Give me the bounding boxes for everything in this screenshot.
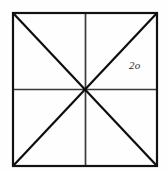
geometry-figure: 2o xyxy=(0,0,168,172)
angle-label-2o: 2o xyxy=(129,60,140,71)
figure-canvas xyxy=(0,0,168,172)
